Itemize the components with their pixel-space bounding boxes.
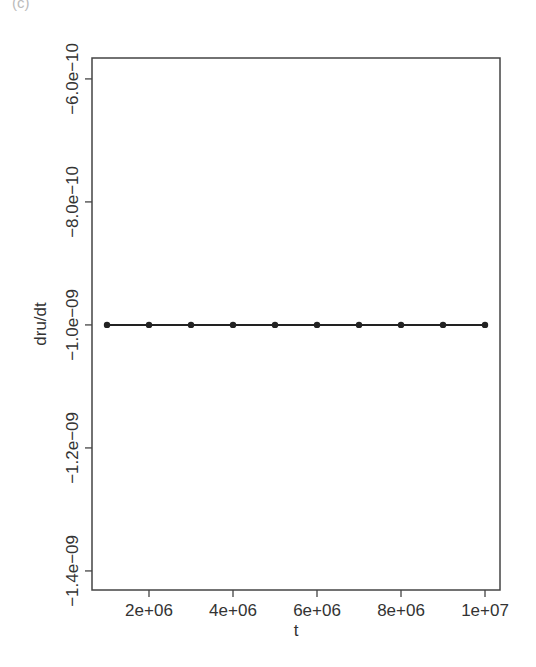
data-point [356, 322, 362, 328]
data-point [104, 322, 110, 328]
y-tick-label: −8.0e−10 [63, 166, 82, 238]
data-point [272, 322, 278, 328]
x-axis: 2e+064e+066e+068e+061e+07 [125, 590, 509, 620]
x-axis-title: t [294, 621, 299, 640]
data-point [230, 322, 236, 328]
y-tick-label: −6.0e−10 [63, 43, 82, 115]
chart: (c) −6.0e−10−8.0e−10−1.0e−09−1.2e−09−1.4… [0, 0, 536, 667]
y-tick-label: −1.4e−09 [63, 535, 82, 607]
data-point [146, 322, 152, 328]
x-tick-label: 2e+06 [125, 601, 173, 620]
data-point [398, 322, 404, 328]
data-point [314, 322, 320, 328]
data-point [188, 322, 194, 328]
x-tick-label: 6e+06 [293, 601, 341, 620]
data-point [440, 322, 446, 328]
y-tick-label: −1.2e−09 [63, 412, 82, 484]
x-tick-label: 8e+06 [377, 601, 425, 620]
x-tick-label: 4e+06 [209, 601, 257, 620]
x-tick-label: 1e+07 [461, 601, 509, 620]
data-series [104, 322, 488, 328]
y-axis-title: dru/dt [31, 302, 50, 346]
y-axis: −6.0e−10−8.0e−10−1.0e−09−1.2e−09−1.4e−09 [63, 43, 92, 607]
data-point [482, 322, 488, 328]
panel-label: (c) [12, 0, 30, 11]
y-tick-label: −1.0e−09 [63, 289, 82, 361]
